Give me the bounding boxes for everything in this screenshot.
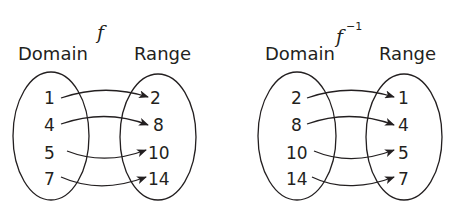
range-value: 1 (398, 88, 409, 108)
mapping-arrow (307, 90, 394, 98)
domain-value: 4 (44, 115, 55, 135)
range-value: 5 (398, 143, 409, 163)
mapping-arrow (61, 117, 148, 125)
inverse-superscript: −1 (346, 20, 362, 33)
diagram-f-inverse: f −1 Domain Range 2 8 10 14 1 4 5 7 (258, 20, 442, 200)
domain-heading: Domain (265, 43, 335, 64)
domain-value: 14 (286, 169, 308, 189)
mapping-arrow (312, 177, 394, 186)
domain-value: 7 (44, 169, 55, 189)
range-value: 7 (398, 169, 409, 189)
range-value: 14 (148, 169, 170, 189)
domain-heading: Domain (18, 43, 88, 64)
domain-value: 1 (44, 88, 55, 108)
range-heading: Range (134, 43, 191, 64)
range-heading: Range (379, 43, 436, 64)
range-value: 10 (148, 143, 170, 163)
domain-value: 2 (291, 88, 302, 108)
diagram-f: f Domain Range 1 4 5 7 2 8 10 14 (13, 21, 196, 200)
range-value: 4 (398, 115, 409, 135)
function-label-f-inverse: f (334, 25, 346, 47)
mapping-arrow (307, 117, 394, 125)
mapping-arrow (314, 150, 394, 158)
mapping-arrow (61, 90, 148, 98)
domain-value: 10 (286, 143, 308, 163)
mapping-diagrams: f Domain Range 1 4 5 7 2 8 10 14 f −1 Do… (0, 0, 453, 214)
domain-value: 5 (44, 143, 55, 163)
domain-value: 8 (291, 115, 302, 135)
function-label-f: f (95, 21, 107, 43)
range-value: 8 (153, 115, 164, 135)
mapping-arrow (67, 150, 146, 158)
range-value: 2 (150, 88, 161, 108)
